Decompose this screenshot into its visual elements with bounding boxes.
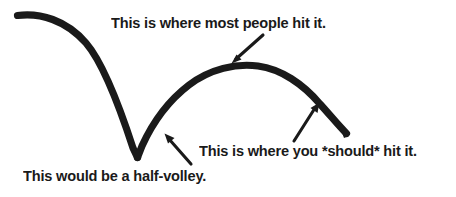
caption-most-people: This is where most people hit it. <box>111 15 326 31</box>
arrow-to-bounce-point-icon <box>165 134 192 165</box>
arrow-to-rising-ball-icon <box>294 103 320 142</box>
caption-should-hit: This is where you *should* hit it. <box>199 143 417 159</box>
incoming-ball-path <box>18 15 138 158</box>
trajectory-diagram: This is where most people hit it. This i… <box>0 0 456 197</box>
caption-half-volley: This would be a half-volley. <box>23 168 206 184</box>
arrow-to-apex-icon <box>232 35 264 64</box>
